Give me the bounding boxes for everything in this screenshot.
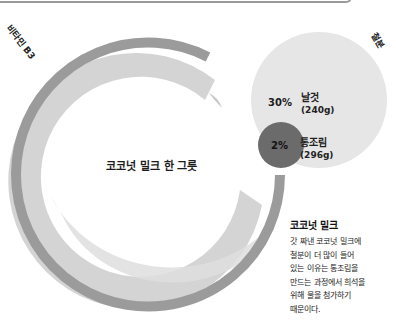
note-line: 때문이다. [290, 303, 396, 317]
canned-name: 통조림 [300, 137, 327, 148]
note-line: 갓 짜낸 코코넛 밀크에 [290, 235, 396, 249]
coconut-milk-note: 코코넛 밀크 갓 짜낸 코코넛 밀크에 철분이 더 많이 들어 있는 이유는 통… [290, 217, 396, 316]
center-title: 코코넛 밀크 한 그릇 [106, 157, 198, 173]
raw-label: 날것 (240g) [301, 91, 334, 117]
raw-percent: 30% [268, 97, 292, 108]
note-line: 위해 물을 첨가하기 [290, 289, 396, 303]
ring-sliver [209, 93, 222, 108]
note-title: 코코넛 밀크 [290, 217, 396, 232]
canned-label: 통조림 (296g) [300, 136, 333, 162]
canned-grams: (296g) [300, 149, 333, 162]
note-line: 철분이 더 많이 들어 [290, 249, 396, 263]
note-line: 있는 이유는 통조림을 [290, 262, 396, 276]
raw-name: 날것 [301, 92, 319, 103]
raw-grams: (240g) [301, 104, 334, 117]
canned-percent: 2% [271, 140, 288, 151]
note-line: 만드는 과정에서 희석을 [290, 276, 396, 290]
